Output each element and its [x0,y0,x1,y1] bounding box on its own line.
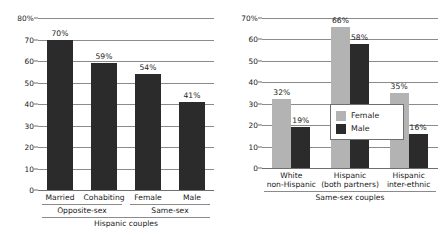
group-label-0: Opposite-sex [57,206,107,215]
y-tick-label-40: 40 [248,78,262,87]
x-axis-label-married: Married [46,193,75,202]
y-tick-label-70: 70 [24,35,38,44]
x-axis-label-line1-group3: Hispanic [392,171,424,180]
y-tick-label-0: 0 [29,186,38,195]
gridline-0 [38,190,214,191]
y-tick-label-70: 70% [241,14,262,23]
y-tick-label-60: 60 [24,57,38,66]
gridline-0 [262,168,438,169]
bar-male-group1 [291,127,310,168]
footer-rule [42,217,210,218]
bar-value-label-female-group3: 35% [391,82,408,91]
x-axis-label-male: Male [183,193,201,202]
y-tick-label-20: 20 [24,143,38,152]
x-axis-label-cohabiting: Cohabiting [83,193,124,202]
bar-female [135,74,161,190]
x-axis-label-female: Female [134,193,161,202]
x-axis-label-group3: Hispanicinter-ethnic [387,171,431,189]
bar-value-label-female-group1: 32% [273,88,290,97]
y-tick-label-10: 10 [248,142,262,151]
group-rule-1 [130,204,210,205]
legend-row-female: Female [336,109,397,122]
legend-label-female: Female [351,111,379,120]
bar-value-label-female-group2: 66% [332,16,349,25]
bar-value-label-cohabiting: 59% [95,52,112,61]
left-plot-area: 80%706050403020100 70%59%54%41% [38,18,214,190]
gridline-70 [262,18,438,19]
bar-female-group1 [272,99,291,168]
y-tick-label-60: 60 [248,35,262,44]
bar-male [179,102,205,190]
legend-row-male: Male [336,122,397,135]
group-rule-0 [42,204,122,205]
bar-cohabiting [91,63,117,190]
group-label-1: Same-sex [151,206,188,215]
x-axis-label-line2-group3: inter-ethnic [387,180,431,189]
y-tick-label-50: 50 [24,78,38,87]
bar-value-label-male-group3: 16% [410,123,427,132]
chart-legend: Female Male [330,104,404,140]
female-swatch-icon [336,111,346,121]
left-chart-panel: 80%706050403020100 70%59%54%41% MarriedC… [0,0,224,229]
gridline-80 [38,18,214,19]
footer-rule [264,191,436,192]
y-tick-label-30: 30 [248,99,262,108]
x-axis-label-line2-group1: non-Hispanic [267,180,316,189]
bar-value-label-male-group1: 19% [292,116,309,125]
bar-value-label-female: 54% [139,63,156,72]
x-axis-label-group2: Hispanic(both partners) [321,171,379,189]
bar-female-group2 [331,27,350,168]
footer-label: Same-sex couples [316,193,385,202]
y-tick-label-30: 30 [24,121,38,130]
right-plot-area: 70%6050403020100 32%19%66%58%35%16% Fema… [262,18,438,168]
bar-value-label-male: 41% [183,91,200,100]
two-panel-bar-chart-figure: 80%706050403020100 70%59%54%41% MarriedC… [0,0,448,229]
bar-married [47,40,73,191]
x-axis-label-group1: Whitenon-Hispanic [267,171,316,189]
right-chart-panel: 70%6050403020100 32%19%66%58%35%16% Fema… [224,0,448,229]
footer-label: Hispanic couples [94,219,158,228]
bar-value-label-married: 70% [51,29,68,38]
bar-male-group3 [409,134,428,168]
legend-label-male: Male [351,124,369,133]
y-tick-label-40: 40 [24,100,38,109]
x-axis-label-line2-group2: (both partners) [321,180,379,189]
y-tick-label-0: 0 [253,164,262,173]
y-tick-label-10: 10 [24,164,38,173]
male-swatch-icon [336,124,346,134]
y-tick-label-80: 80% [17,14,38,23]
x-axis-label-line1-group2: Hispanic [334,171,366,180]
x-axis-label-line1-group1: White [280,171,302,180]
bar-value-label-male-group2: 58% [351,33,368,42]
y-tick-label-20: 20 [248,121,262,130]
y-tick-label-50: 50 [248,56,262,65]
